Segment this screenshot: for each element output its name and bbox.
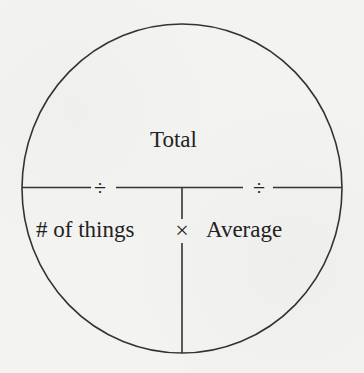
multiply-sign: × (175, 218, 189, 242)
label-number-of-things: # of things (36, 218, 134, 241)
divide-sign-left: ÷ (94, 177, 106, 199)
divide-sign-right: ÷ (253, 177, 265, 199)
formula-circle-diagram (0, 0, 364, 373)
label-total: Total (150, 128, 197, 151)
label-average: Average (206, 218, 282, 241)
